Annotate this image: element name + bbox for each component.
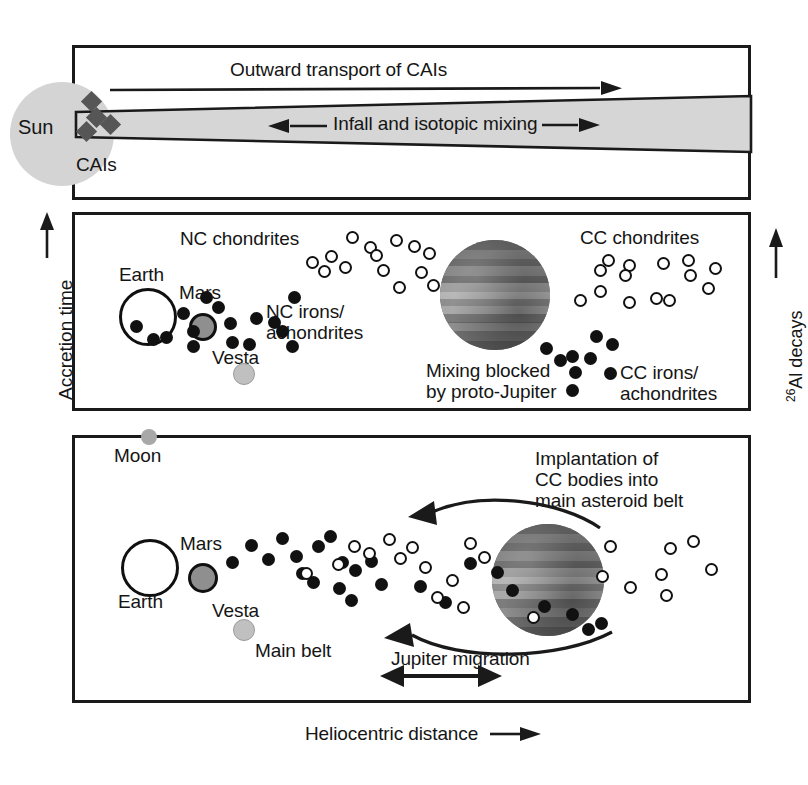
cc-body-marker [660,589,673,602]
cc-body-marker [431,591,444,604]
cc-iron-marker-bottom [595,617,608,630]
nc-chondrite-marker [318,265,331,278]
nc-body-marker [245,539,258,552]
nc-chondrite-marker [408,240,421,253]
cc-body-marker [604,540,617,553]
cc-body-marker [406,541,419,554]
cc-iron-marker-bottom [566,608,579,621]
nc-chondrite-marker [393,281,406,294]
nc-body-marker [290,550,303,563]
cc-iron-marker-bottom [538,600,551,613]
nc-body-marker [349,564,362,577]
nc-body-marker [324,530,337,543]
cc-iron-marker [566,350,579,363]
nc-chondrite-marker [427,279,440,292]
mars-label-bottom: Mars [180,533,222,554]
cc-body-marker [664,542,677,555]
implantation-label: Implantation of CC bodies into main aste… [535,448,683,511]
cc-chondrite-marker [623,296,636,309]
vesta-body-bottom [233,619,255,641]
cc-body-marker [332,558,345,571]
nc-iron-marker [224,317,237,330]
cc-chondrite-marker [709,262,722,275]
cc-body-marker [419,561,432,574]
cc-chondrite-marker [702,282,715,295]
cc-iron-marker-bottom [582,623,595,636]
nc-body-marker [312,540,325,553]
nc-iron-marker [130,320,143,333]
cc-body-marker [687,535,700,548]
earth-label-middle: Earth [119,264,164,285]
nc-chondrite-marker [415,266,428,279]
cc-chondrite-marker [682,254,695,267]
cc-body-marker [446,574,459,587]
mars-body-bottom [188,563,218,593]
nc-iron-marker [147,333,160,346]
cc-body-marker [478,551,491,564]
nc-body-marker [375,578,388,591]
cc-chondrite-marker [619,269,632,282]
cc-iron-marker [569,366,582,379]
nc-body-marker [491,566,504,579]
nc-body-marker [276,532,289,545]
nc-chondrite-marker [325,250,338,263]
nc-chondrite-marker [370,249,383,262]
nc-iron-marker [288,291,301,304]
nc-body-marker [262,553,275,566]
nc-chondrite-marker [377,264,390,277]
al26-text: Al decays [786,311,806,389]
vesta-body-middle [233,363,255,385]
cc-body-marker [527,611,540,624]
cc-chondrite-marker [574,294,587,307]
nc-iron-marker [286,340,299,353]
jupiter-body-middle [440,240,550,350]
moon-body [141,429,157,445]
cc-body-marker [624,581,637,594]
cais-label: CAIs [76,154,117,175]
cc-body-marker [394,552,407,565]
cc-body-marker [464,537,477,550]
infall-mixing-label: Infall and isotopic mixing [333,113,537,134]
nc-body-marker [345,594,358,607]
nc-iron-marker [177,307,190,320]
main-belt-label: Main belt [255,640,331,661]
nc-body-marker [414,580,427,593]
cc-body-marker [705,563,718,576]
cc-iron-marker [540,342,553,355]
nc-body-marker [506,584,519,597]
cc-iron-marker [604,367,617,380]
cc-chondrites-label: CC chondrites [580,227,699,248]
sun-label: Sun [18,117,53,138]
cc-iron-marker [554,354,567,367]
cc-iron-marker [584,352,597,365]
cc-body-marker [383,533,396,546]
cc-chondrite-marker [684,269,697,282]
cc-body-marker [363,547,376,560]
mixing-blocked-label: Mixing blocked by proto-Jupiter [426,360,556,402]
nc-body-marker [333,582,346,595]
nc-iron-marker [250,312,263,325]
heliocentric-distance-label: Heliocentric distance [305,723,478,744]
figure-root: Sun CAIs Outward transport of CAIs Infal… [0,0,808,785]
cc-body-marker [457,601,470,614]
cc-chondrite-marker [594,264,607,277]
cc-body-marker [655,568,668,581]
nc-iron-marker [243,338,256,351]
cc-body-marker [348,540,361,553]
nc-iron-marker [212,301,225,314]
cc-iron-marker [590,330,603,343]
nc-chondrite-marker [390,234,403,247]
cc-chondrite-marker [657,257,670,270]
nc-iron-marker [160,331,173,344]
jupiter-body-bottom [492,524,604,636]
cc-chondrite-marker [650,292,663,305]
cc-chondrite-marker [663,294,676,307]
nc-body-marker [226,556,239,569]
cc-iron-marker [606,338,619,351]
accretion-time-label: Accretion time [55,280,77,400]
cc-irons-achondrites-label: CC irons/ achondrites [620,362,717,404]
nc-iron-marker [200,291,213,304]
vesta-label-bottom: Vesta [212,600,259,621]
cc-iron-marker [566,384,579,397]
cc-body-marker [596,570,609,583]
